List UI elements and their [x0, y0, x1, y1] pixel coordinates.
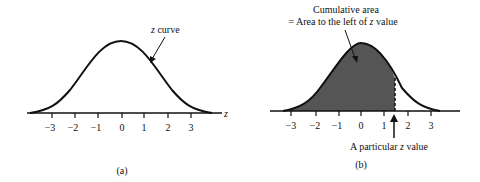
caption-b: (b) [355, 159, 367, 171]
tick-label: 0 [120, 122, 125, 133]
tick-label: 0 [359, 120, 364, 131]
tick-label: −2 [310, 120, 321, 131]
cumulative-area-label: Cumulative area [313, 4, 379, 15]
cumulative-area-shading [284, 43, 395, 111]
tick-label: 2 [406, 120, 411, 131]
tick-label: −3 [45, 122, 56, 133]
z-curve-arrow [152, 37, 165, 59]
tick-label: −2 [68, 122, 79, 133]
z-curve-figure: −3 −2 −1 0 1 2 3 z z curve (a) −3 −2 −1 [0, 0, 480, 182]
caption-a: (a) [116, 165, 127, 177]
tick-label: 1 [142, 122, 147, 133]
z-curve [30, 41, 212, 113]
area-left-label: = Area to the left of z value [288, 16, 398, 27]
z-curve-label: z curve [150, 24, 180, 35]
tick-label: −1 [332, 120, 343, 131]
axis-label-z: z [223, 108, 228, 119]
panel-b: −3 −2 −1 0 1 2 3 Cumulative area = Area … [270, 4, 460, 171]
panel-a: −3 −2 −1 0 1 2 3 z z curve (a) [27, 24, 228, 177]
tick-label: 3 [189, 122, 194, 133]
tick-label: 1 [382, 120, 387, 131]
tick-label: −3 [286, 120, 297, 131]
tick-label: 2 [166, 122, 171, 133]
particular-z-label: A particular z value [350, 141, 429, 152]
tick-label: −1 [91, 122, 102, 133]
tick-label: 3 [429, 120, 434, 131]
arrowhead-icon [390, 114, 398, 122]
